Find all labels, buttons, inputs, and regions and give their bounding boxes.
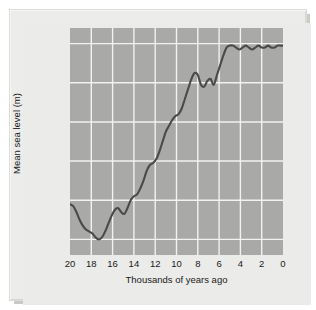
figure-panel: Present level − 20 − 40 − 60 − 80 − 100 …: [0, 0, 316, 310]
x-tick-2: 2: [259, 258, 264, 269]
x-tick-4: 4: [238, 258, 243, 269]
x-tick-20: 20: [65, 258, 76, 269]
x-axis-tick-labels: 20181614121086420: [70, 258, 283, 272]
x-tick-10: 10: [171, 258, 182, 269]
plot-area: [70, 28, 283, 255]
y-axis-title: Mean sea level (m): [11, 82, 22, 186]
x-tick-8: 8: [195, 258, 200, 269]
x-tick-16: 16: [107, 258, 118, 269]
sea-level-line-chart: [70, 28, 283, 255]
x-tick-18: 18: [86, 258, 97, 269]
x-tick-12: 12: [150, 258, 161, 269]
gridlines: [70, 28, 283, 255]
x-tick-0: 0: [280, 258, 285, 269]
x-axis-title: Thousands of years ago: [70, 274, 283, 285]
x-tick-14: 14: [129, 258, 140, 269]
x-tick-6: 6: [216, 258, 221, 269]
